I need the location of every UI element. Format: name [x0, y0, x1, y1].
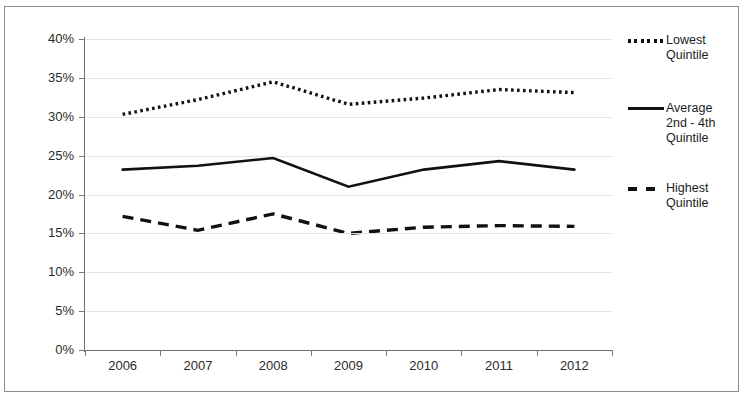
legend-label: Average 2nd - 4th Quintile: [666, 101, 736, 146]
x-tick-mark: [85, 350, 86, 356]
x-tick-mark: [160, 350, 161, 356]
x-tick-label: 2012: [539, 358, 609, 373]
y-tick-mark: [79, 311, 85, 312]
y-tick-mark: [79, 195, 85, 196]
x-tick-label: 2011: [464, 358, 534, 373]
x-tick-label: 2009: [314, 358, 384, 373]
y-tick-label-text: 20%: [30, 187, 74, 202]
x-tick-label: 2010: [389, 358, 459, 373]
gridline: [85, 311, 612, 312]
y-tick-label: 30%: [24, 109, 74, 125]
y-tick-mark: [79, 233, 85, 234]
x-tick-label: 2007: [163, 358, 233, 373]
legend-label: Lowest Quintile: [666, 33, 736, 63]
legend-swatch-dotted: [628, 39, 664, 43]
legend-swatch-solid: [628, 107, 664, 110]
y-tick-mark: [79, 156, 85, 157]
gridline: [85, 39, 612, 40]
y-tick-label: 5%: [24, 303, 74, 319]
y-tick-label-text: 25%: [30, 148, 74, 163]
x-tick-label: 2008: [238, 358, 308, 373]
chart-figure: 40%35%30%25%20%15%10%5%0% 20062007200820…: [0, 0, 748, 403]
y-tick-label: 40%: [24, 31, 74, 47]
y-tick-label-text: 10%: [30, 264, 74, 279]
y-tick-label-text: 35%: [30, 70, 74, 85]
gridline: [85, 78, 612, 79]
x-axis-line: [84, 350, 613, 351]
y-tick-mark: [79, 272, 85, 273]
y-tick-label-text: 5%: [30, 303, 74, 318]
gridline: [85, 233, 612, 234]
legend-swatch-dashed: [628, 187, 664, 191]
y-tick-label-text: 15%: [30, 225, 74, 240]
y-tick-label: 0%: [24, 342, 74, 358]
y-tick-label: 10%: [24, 264, 74, 280]
x-tick-label: 2006: [88, 358, 158, 373]
y-tick-label-text: 30%: [30, 109, 74, 124]
y-tick-mark: [79, 78, 85, 79]
y-tick-label-text: 0%: [30, 342, 74, 357]
x-tick-mark: [461, 350, 462, 356]
y-tick-label: 25%: [24, 148, 74, 164]
y-tick-label: 15%: [24, 225, 74, 241]
y-tick-label: 20%: [24, 187, 74, 203]
y-tick-mark: [79, 117, 85, 118]
series-line-1: [123, 158, 575, 187]
y-tick-label-text: 40%: [30, 31, 74, 46]
x-tick-mark: [386, 350, 387, 356]
series-line-0: [123, 82, 575, 115]
x-tick-mark: [311, 350, 312, 356]
legend-label: Highest Quintile: [666, 181, 736, 211]
gridline: [85, 156, 612, 157]
series-line-2: [123, 214, 575, 234]
gridline: [85, 195, 612, 196]
x-tick-mark: [612, 350, 613, 356]
y-tick-mark: [79, 39, 85, 40]
gridline: [85, 272, 612, 273]
y-tick-label: 35%: [24, 70, 74, 86]
x-tick-mark: [236, 350, 237, 356]
x-tick-mark: [537, 350, 538, 356]
gridline: [85, 117, 612, 118]
